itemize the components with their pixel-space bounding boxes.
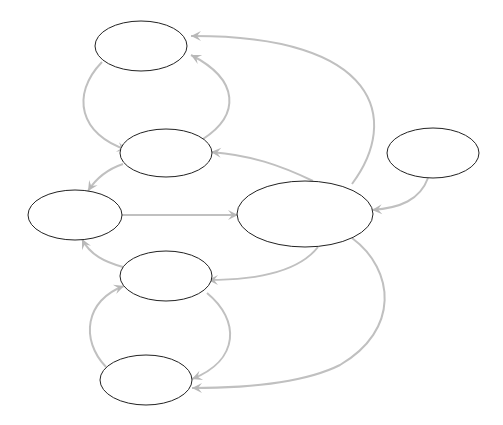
edge-line [211, 152, 313, 181]
node-ellipse[interactable] [120, 251, 212, 301]
edge-D-to-F [208, 247, 318, 285]
edge-line [192, 238, 385, 388]
edge-F-to-G [192, 293, 230, 380]
edge-D-to-B [211, 148, 313, 181]
node-layer [28, 21, 479, 405]
node-ellipse[interactable] [95, 21, 187, 71]
node-ellipse[interactable] [387, 128, 479, 178]
edge-D-to-G [192, 238, 385, 393]
node-C[interactable] [28, 190, 122, 240]
edge-line [191, 55, 229, 139]
node-G[interactable] [100, 355, 192, 405]
edge-line [208, 247, 318, 280]
node-E[interactable] [387, 128, 479, 178]
node-ellipse[interactable] [237, 181, 373, 247]
edge-line [83, 62, 127, 150]
edge-F-to-C [82, 239, 123, 267]
edge-line [82, 239, 123, 267]
node-D[interactable] [237, 181, 373, 247]
node-F[interactable] [120, 251, 212, 301]
edge-line [90, 286, 124, 367]
node-ellipse[interactable] [100, 355, 192, 405]
edge-C-to-D [122, 210, 238, 220]
edge-line [191, 36, 374, 184]
directed-graph [0, 0, 503, 425]
edge-B-to-C [88, 164, 123, 191]
edge-E-to-D [372, 178, 428, 214]
edge-D-to-A [191, 31, 374, 184]
edge-line [192, 293, 230, 379]
node-B[interactable] [120, 129, 212, 177]
node-ellipse[interactable] [28, 190, 122, 240]
edge-A-to-B [83, 62, 127, 152]
node-ellipse[interactable] [120, 129, 212, 177]
edge-B-to-A [191, 55, 229, 139]
node-A[interactable] [95, 21, 187, 71]
edge-G-to-F [90, 285, 124, 367]
